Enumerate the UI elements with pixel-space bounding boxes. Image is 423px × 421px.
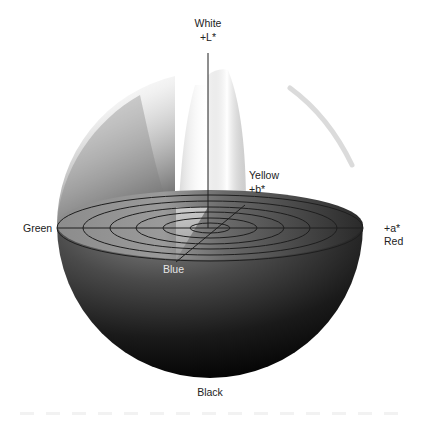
faint-caption-artifact — [20, 412, 403, 415]
white-label: White — [188, 17, 228, 29]
blue-label: Blue — [163, 263, 184, 275]
cielab-diagram: White +L* Yellow +b* Green +a* Red Blue … — [0, 0, 423, 421]
yellow-label: Yellow — [249, 169, 279, 181]
black-label: Black — [190, 386, 230, 398]
plus-a-label: +a* — [384, 222, 400, 234]
red-label: Red — [384, 235, 403, 247]
upper-right-arc-highlight — [290, 88, 352, 165]
green-label: Green — [23, 222, 52, 234]
plus-l-label: +L* — [188, 31, 228, 43]
plus-b-label: +b* — [249, 183, 265, 195]
